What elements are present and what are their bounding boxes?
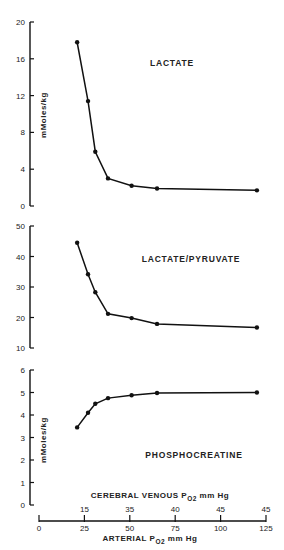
chart: 048121620LACTATEmMoles/kg1020304050LACTA…: [0, 0, 284, 550]
arterial-tick-label: 0: [37, 524, 42, 533]
y-tick-label: 20: [16, 18, 25, 27]
data-point: [255, 188, 259, 192]
arterial-tick-label: 100: [214, 524, 228, 533]
y-tick-label: 3: [21, 434, 26, 443]
data-point: [106, 176, 110, 180]
data-point: [75, 241, 79, 245]
y-tick-label: 6: [21, 366, 26, 375]
y-tick-label: 16: [16, 55, 25, 64]
y-tick-label: 8: [21, 128, 26, 137]
phosphocreatine-series-line: [77, 393, 257, 428]
data-point: [86, 272, 90, 276]
venous-tick-label: 45: [216, 505, 225, 514]
data-point: [106, 312, 110, 316]
data-point: [86, 99, 90, 103]
data-point: [93, 290, 97, 294]
venous-tick-label: 40: [171, 505, 180, 514]
y-tick-label: 0: [21, 501, 26, 510]
venous-axis-label: CEREBRAL VENOUS PO2 mm Hg: [91, 491, 229, 502]
y-tick-label: 20: [16, 314, 25, 323]
y-tick-label: 10: [16, 344, 25, 353]
venous-tick-label: 45: [262, 505, 271, 514]
data-point: [75, 425, 79, 429]
lactate-title: LACTATE: [150, 58, 194, 68]
phosphocreatine-title: PHOSPHOCREATINE: [145, 450, 242, 460]
y-tick-label: 5: [21, 389, 26, 398]
y-tick-label: 1: [21, 479, 26, 488]
data-point: [93, 402, 97, 406]
data-point: [75, 40, 79, 44]
data-point: [155, 186, 159, 190]
data-point: [129, 393, 133, 397]
y-tick-label: 30: [16, 283, 25, 292]
arterial-tick-label: 75: [171, 524, 180, 533]
data-point: [93, 150, 97, 154]
y-tick-label: 4: [21, 411, 26, 420]
data-point: [129, 184, 133, 188]
y-tick-label: 2: [21, 456, 26, 465]
venous-tick-label: 15: [80, 505, 89, 514]
y-tick-label: 4: [21, 165, 26, 174]
lactate-y-label: mMoles/kg: [39, 92, 48, 138]
venous-tick-label: 35: [125, 505, 134, 514]
data-point: [155, 391, 159, 395]
arterial-tick-label: 125: [259, 524, 273, 533]
y-tick-label: 0: [21, 202, 26, 211]
data-point: [155, 322, 159, 326]
arterial-tick-label: 50: [125, 524, 134, 533]
phosphocreatine-y-label: mMoles/kg: [39, 417, 48, 463]
y-tick-label: 12: [16, 92, 25, 101]
data-point: [255, 325, 259, 329]
y-tick-label: 50: [16, 222, 25, 231]
data-point: [129, 316, 133, 320]
y-tick-label: 40: [16, 253, 25, 262]
data-point: [255, 390, 259, 394]
arterial-axis-label: ARTERIAL PO2 mm Hg: [103, 534, 198, 545]
arterial-tick-label: 25: [80, 524, 89, 533]
data-point: [106, 396, 110, 400]
lactate-pyruvate-title: LACTATE/PYRUVATE: [142, 254, 241, 264]
data-point: [86, 411, 90, 415]
